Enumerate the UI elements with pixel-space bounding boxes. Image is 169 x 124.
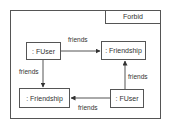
diagram-canvas: Forbid : FUser : Friendship : Friendship… — [0, 0, 169, 124]
node-friendship-top: : Friendship — [101, 41, 146, 60]
node-fuser-top: : FUser — [26, 42, 61, 60]
node-friendship-bottom: : Friendship — [19, 88, 70, 108]
edge-label-top: friends — [68, 36, 88, 44]
node-label: : Friendship — [26, 95, 63, 102]
edge-label-bottom: friends — [78, 104, 98, 112]
edge-label-left: friends — [19, 68, 39, 76]
node-fuser-bottom: : FUser — [110, 89, 144, 108]
node-label: : FUser — [116, 95, 139, 102]
edge-label-right: friends — [128, 73, 148, 81]
node-label: : Friendship — [105, 47, 142, 54]
node-label: : FUser — [32, 48, 55, 55]
